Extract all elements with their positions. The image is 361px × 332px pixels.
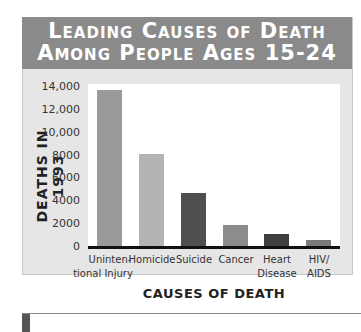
footer-divider	[22, 313, 361, 314]
x-axis-line	[88, 246, 340, 249]
y-tick-label: 10,000	[32, 126, 80, 139]
bar-unintentional-injury	[97, 90, 122, 247]
plot-area	[88, 84, 340, 247]
bar-suicide	[181, 193, 206, 247]
title-line-1: Leading Causes of Death	[22, 19, 352, 43]
y-tick-label: 8000	[32, 149, 80, 162]
footer-marker	[22, 314, 30, 332]
y-tick-label: 0	[32, 240, 80, 253]
x-tick-label: HIV/AIDS	[288, 253, 350, 281]
x-axis-label: CAUSES OF DEATH	[88, 286, 340, 301]
y-tick-label: 4000	[32, 194, 80, 207]
chart-title: Leading Causes of Death Among People Age…	[22, 17, 352, 69]
y-tick-label: 2000	[32, 217, 80, 230]
y-tick-label: 6000	[32, 171, 80, 184]
y-tick-label: 12,000	[32, 103, 80, 116]
y-tick-label: 14,000	[32, 80, 80, 93]
title-line-2: Among People Ages 15-24	[22, 41, 352, 65]
bar-homicide	[139, 154, 164, 247]
bar-cancer	[223, 225, 248, 247]
